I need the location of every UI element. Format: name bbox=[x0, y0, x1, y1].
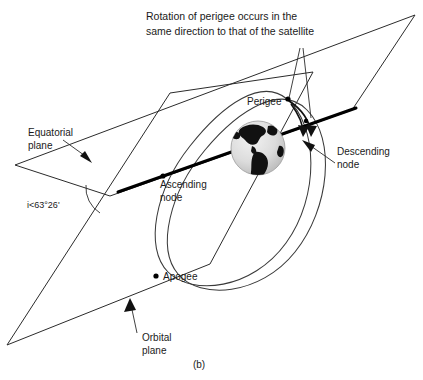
perigee-marker bbox=[285, 96, 290, 101]
descending-node-leader bbox=[302, 140, 335, 163]
orbital-plane-label-line1: Orbital bbox=[142, 332, 171, 343]
equatorial-plane-label-line1: Equatorial bbox=[28, 127, 73, 138]
orbital-diagram: Rotation of perigee occurs in the same d… bbox=[0, 0, 423, 380]
orbital-plane-label-line2: plane bbox=[142, 345, 167, 356]
apogee-label: Apogee bbox=[163, 271, 198, 282]
orbital-plane-leader bbox=[124, 298, 137, 333]
figure-caption: (b) bbox=[193, 359, 205, 370]
ascending-node-label-line2: node bbox=[160, 192, 183, 203]
apogee-marker bbox=[153, 273, 158, 278]
perigee-rotated-marker bbox=[304, 119, 308, 123]
ascending-node-label-line1: Ascending bbox=[160, 179, 207, 190]
figure-canvas: Rotation of perigee occurs in the same d… bbox=[0, 0, 423, 380]
inclination-label: i<63°26' bbox=[27, 200, 60, 210]
earth-globe bbox=[231, 121, 285, 181]
descending-node-label-line2: node bbox=[337, 159, 360, 170]
ascending-node-marker bbox=[160, 173, 165, 178]
perigee-label: Perigee bbox=[247, 96, 282, 107]
descending-node-label-line1: Descending bbox=[337, 146, 390, 157]
equatorial-plane-label-line2: plane bbox=[28, 140, 53, 151]
equatorial-plane-leader bbox=[63, 140, 92, 163]
figure-title-line1: Rotation of perigee occurs in the bbox=[146, 10, 297, 22]
figure-title-line2: same direction to that of the satellite bbox=[146, 25, 314, 37]
